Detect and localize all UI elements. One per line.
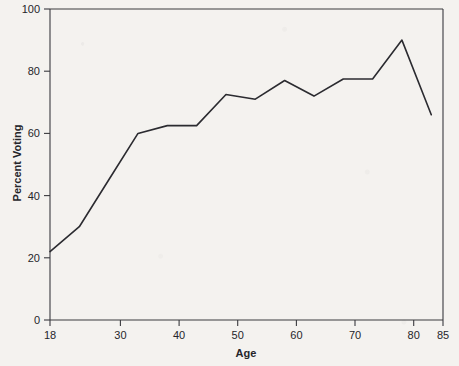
- y-tick-label-0: 0: [34, 314, 40, 326]
- x-tick-label-70: 70: [349, 329, 361, 341]
- y-tick-label-80: 80: [28, 65, 40, 77]
- x-tick-label-18: 18: [44, 329, 56, 341]
- y-tick-label-40: 40: [28, 190, 40, 202]
- x-tick-label-60: 60: [290, 329, 302, 341]
- x-tick-label-85: 85: [437, 329, 449, 341]
- y-axis-title: Percent Voting: [11, 125, 23, 202]
- x-tick-label-30: 30: [114, 329, 126, 341]
- x-tick-label-50: 50: [232, 329, 244, 341]
- percent-voting-line-chart: 0 20 40 60 80 100 18 30 40 50 60 70 80 8…: [0, 0, 459, 366]
- y-tick-label-20: 20: [28, 252, 40, 264]
- y-tick-label-60: 60: [28, 127, 40, 139]
- y-tick-label-100: 100: [22, 3, 40, 15]
- x-tick-label-80: 80: [408, 329, 420, 341]
- x-tick-label-40: 40: [173, 329, 185, 341]
- x-axis-title: Age: [236, 347, 257, 359]
